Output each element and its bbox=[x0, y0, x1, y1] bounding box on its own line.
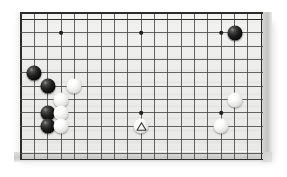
go-board-screen bbox=[0, 0, 287, 177]
triangle-mark-icon bbox=[136, 121, 147, 131]
star-point-mid-center bbox=[139, 111, 143, 115]
white-stone-left-a[interactable] bbox=[67, 79, 82, 94]
white-stone-marked-center[interactable] bbox=[134, 119, 149, 134]
black-stone-left-a[interactable] bbox=[40, 79, 55, 94]
white-stone-left-d[interactable] bbox=[54, 119, 69, 134]
white-stone-right-upper[interactable] bbox=[227, 92, 242, 107]
star-point-mid-right bbox=[219, 111, 223, 115]
star-point-top-right bbox=[219, 31, 223, 35]
black-stone-top-right[interactable] bbox=[227, 25, 242, 40]
triangle-mark bbox=[137, 122, 146, 130]
star-point-top-left bbox=[59, 31, 63, 35]
black-stone-left-upper[interactable] bbox=[27, 65, 42, 80]
star-point-top-center bbox=[139, 31, 143, 35]
white-stone-right-lower[interactable] bbox=[214, 119, 229, 134]
